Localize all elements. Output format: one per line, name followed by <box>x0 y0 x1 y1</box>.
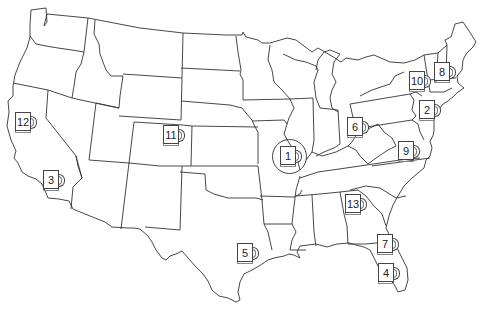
mug-marker-1[interactable]: 1 <box>280 146 306 170</box>
marker-label: 3 <box>43 172 59 188</box>
mug-marker-3[interactable]: 3 <box>43 170 69 194</box>
marker-label: 4 <box>378 265 394 281</box>
marker-label: 11 <box>163 127 179 143</box>
mug-base <box>347 136 363 138</box>
mug-base <box>163 144 179 146</box>
mug-marker-2[interactable]: 2 <box>419 100 445 124</box>
marker-label: 12 <box>15 114 31 130</box>
mug-base <box>378 282 394 284</box>
mug-base <box>345 213 361 215</box>
mug-base <box>237 262 253 264</box>
mug-base <box>398 160 414 162</box>
mug-base <box>419 119 435 121</box>
mug-marker-7[interactable]: 7 <box>377 234 403 258</box>
mug-base <box>280 165 296 167</box>
marker-label: 9 <box>398 143 414 159</box>
marker-label: 6 <box>347 119 363 135</box>
marker-label: 7 <box>377 236 393 252</box>
mug-marker-12[interactable]: 12 <box>15 112 41 136</box>
marker-label: 1 <box>280 148 296 164</box>
mug-marker-6[interactable]: 6 <box>347 117 373 141</box>
mug-marker-9[interactable]: 9 <box>398 141 424 165</box>
mug-base <box>409 90 425 92</box>
mug-marker-5[interactable]: 5 <box>237 243 263 267</box>
mug-marker-4[interactable]: 4 <box>378 263 404 287</box>
mug-marker-10[interactable]: 10 <box>409 71 435 95</box>
marker-label: 8 <box>434 64 450 80</box>
marker-label: 13 <box>345 196 361 212</box>
mug-base <box>434 81 450 83</box>
mug-base <box>377 253 393 255</box>
mug-base <box>15 131 31 133</box>
marker-label: 10 <box>409 73 425 89</box>
marker-label: 5 <box>237 245 253 261</box>
mug-marker-13[interactable]: 13 <box>345 194 371 218</box>
mug-marker-11[interactable]: 11 <box>163 125 189 149</box>
mug-base <box>43 189 59 191</box>
marker-label: 2 <box>419 102 435 118</box>
mug-marker-8[interactable]: 8 <box>434 62 460 86</box>
